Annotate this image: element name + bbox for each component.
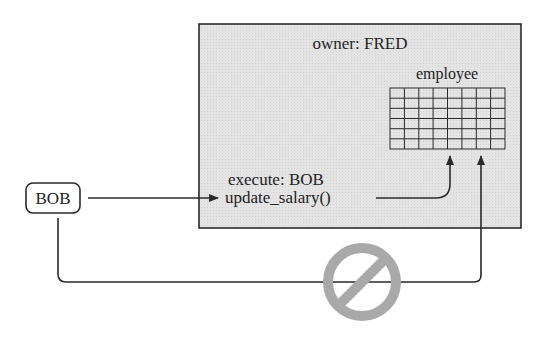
owner-label: owner: FRED (313, 34, 408, 53)
schema-box-fred: owner: FRED employee execute: BOB update… (199, 24, 521, 228)
procedure-label: update_salary() (225, 188, 331, 207)
table-label: employee (416, 65, 478, 83)
user-box-bob: BOB (26, 183, 80, 213)
user-label: BOB (36, 189, 71, 208)
execute-label: execute: BOB (228, 170, 324, 189)
privilege-diagram: owner: FRED employee execute: BOB update… (0, 0, 553, 341)
